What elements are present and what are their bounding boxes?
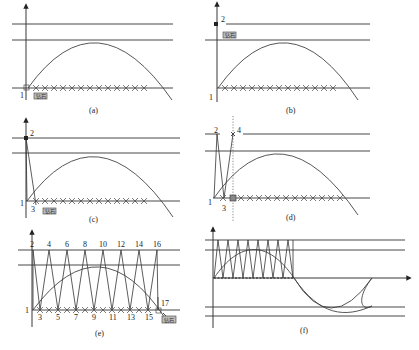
parabola-curve <box>28 43 172 100</box>
point-label-15: 15 <box>145 313 153 322</box>
point-label-1: 1 <box>208 198 212 207</box>
point-label-4: 4 <box>47 240 51 249</box>
point-label-12: 12 <box>117 240 125 249</box>
point-label-4: 4 <box>237 126 241 135</box>
point-label-3: 3 <box>38 313 42 322</box>
panel-b: 2 1 钻石 (b) <box>205 4 370 115</box>
point-label-1: 1 <box>25 306 29 315</box>
point-label-2: 2 <box>221 15 225 24</box>
zigzag-path <box>33 250 158 310</box>
bottom-point-labels: 3 5 7 9 11 13 15 <box>38 313 153 322</box>
caption-b: (b) <box>286 106 296 115</box>
point-label-10: 10 <box>99 240 107 249</box>
point-label-16: 16 <box>153 240 161 249</box>
point-label-6: 6 <box>65 240 69 249</box>
tag-text: 钻石 <box>36 93 46 100</box>
panel-f: (f) <box>205 229 409 335</box>
point-label-1: 1 <box>209 93 213 102</box>
caption-a: (a) <box>89 106 98 115</box>
panel-e: 2 4 6 8 10 12 14 16 3 5 7 9 11 13 15 1 1… <box>18 232 180 338</box>
path-1-2-3 <box>26 138 36 205</box>
point-label-9: 9 <box>92 313 96 322</box>
caption-e: (e) <box>95 329 104 338</box>
point-label-2: 2 <box>30 240 34 249</box>
tag-text: 钻石 <box>164 317 174 324</box>
point-label-2: 2 <box>30 129 34 138</box>
point-label-13: 13 <box>127 313 135 322</box>
point-label-1: 1 <box>20 199 24 208</box>
parabola-curve <box>218 43 358 100</box>
point-label-11: 11 <box>109 313 117 322</box>
point-label-1: 1 <box>20 91 24 100</box>
point-label-8: 8 <box>83 240 87 249</box>
point-label-3: 3 <box>31 205 35 214</box>
parabola-curve <box>214 154 358 215</box>
current-position-marker <box>230 195 236 201</box>
point-label-7: 7 <box>74 313 78 322</box>
diagram-canvas: 1 钻石 (a) 2 1 钻石 (b) 2 1 3 <box>0 0 419 350</box>
path-1-2-3-4 <box>214 134 233 198</box>
tag-text: 钻石 <box>225 32 235 39</box>
panel-d: 2 4 1 3 (d) <box>205 116 370 222</box>
caption-f: (f) <box>300 326 308 335</box>
point-label-5: 5 <box>56 313 60 322</box>
panel-c: 2 1 3 钻石 (c) <box>12 120 180 224</box>
caption-d: (d) <box>286 213 296 222</box>
point-label-2: 2 <box>214 126 218 135</box>
point-label-17: 17 <box>161 299 169 308</box>
caption-c: (c) <box>89 215 98 224</box>
point-label-3: 3 <box>222 204 226 213</box>
point-2-marker <box>24 136 28 140</box>
tag-text: 钻石 <box>45 208 55 215</box>
zigzag-path <box>214 240 293 278</box>
point-label-14: 14 <box>135 240 143 249</box>
point-2-marker <box>214 22 218 26</box>
top-point-labels: 2 4 6 8 10 12 14 16 <box>30 240 161 249</box>
panel-a: 1 钻石 (a) <box>12 6 173 115</box>
